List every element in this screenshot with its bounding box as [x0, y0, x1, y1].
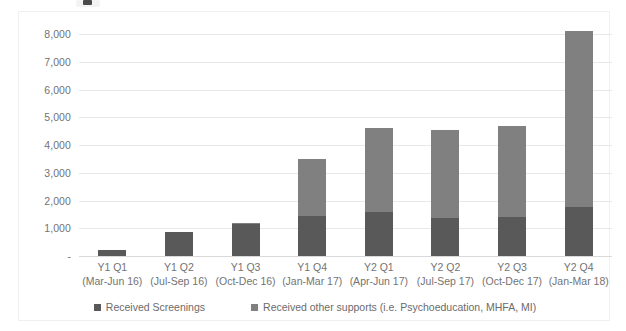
x-label-quarter: Y1 Q2 [164, 261, 194, 273]
bar-segment-screenings[interactable] [498, 217, 526, 256]
y-tick-label: 1,000 [19, 222, 71, 234]
x-label-date-range: (Oct-Dec 16) [212, 274, 279, 288]
x-axis-category-label: Y2 Q1(Apr-Jun 17) [346, 260, 413, 288]
x-label-date-range: (Mar-Jun 16) [79, 274, 146, 288]
y-tick-label: 5,000 [19, 111, 71, 123]
y-tick-label: 6,000 [19, 84, 71, 96]
gridline-- [79, 256, 612, 257]
bar-segment-screenings[interactable] [431, 218, 459, 256]
x-axis-tick-labels: Y1 Q1(Mar-Jun 16)Y1 Q2(Jul-Sep 16)Y1 Q3(… [79, 260, 612, 288]
stacked-bar[interactable] [565, 31, 593, 256]
x-label-quarter: Y2 Q3 [497, 261, 527, 273]
chart-legend: Received ScreeningsReceived other suppor… [19, 301, 611, 313]
y-tick-label: - [19, 250, 71, 262]
x-label-quarter: Y1 Q1 [97, 261, 127, 273]
stacked-bar[interactable] [98, 250, 126, 256]
y-tick-label: 7,000 [19, 56, 71, 68]
x-label-date-range: (Oct-Dec 17) [479, 274, 546, 288]
x-axis-category-label: Y2 Q2(Jul-Sep 17) [412, 260, 479, 288]
legend-label: Received Screenings [106, 301, 205, 313]
x-label-date-range: (Jan-Mar 17) [279, 274, 346, 288]
y-tick-label: 4,000 [19, 139, 71, 151]
bar-segment-screenings[interactable] [298, 216, 326, 256]
x-label-date-range: (Jan-Mar 18) [545, 274, 612, 288]
x-label-date-range: (Jul-Sep 16) [146, 274, 213, 288]
bar-segment-other-supports[interactable] [298, 159, 326, 216]
x-label-date-range: (Jul-Sep 17) [412, 274, 479, 288]
bar-segment-screenings[interactable] [165, 232, 193, 256]
bar-segment-other-supports[interactable] [365, 128, 393, 211]
bar-segment-screenings[interactable] [98, 250, 126, 256]
stacked-bar[interactable] [498, 126, 526, 256]
legend-swatch-icon [251, 304, 258, 311]
x-axis-category-label: Y1 Q3(Oct-Dec 16) [212, 260, 279, 288]
bar-slot [479, 34, 546, 256]
plot-area: 8,0007,0006,0005,0004,0003,0002,0001,000… [79, 34, 612, 256]
stacked-bar[interactable] [298, 159, 326, 256]
bar-slot [412, 34, 479, 256]
legend-item[interactable]: Received Screenings [94, 301, 205, 313]
stacked-bar[interactable] [431, 130, 459, 256]
legend-swatch-icon [94, 304, 101, 311]
bar-slot [545, 34, 612, 256]
y-tick-label: 3,000 [19, 167, 71, 179]
bar-series-layer [79, 34, 612, 256]
bar-segment-other-supports[interactable] [498, 126, 526, 218]
x-label-quarter: Y2 Q2 [431, 261, 461, 273]
bar-segment-screenings[interactable] [565, 207, 593, 256]
bar-segment-other-supports[interactable] [565, 31, 593, 207]
x-axis-category-label: Y1 Q4(Jan-Mar 17) [279, 260, 346, 288]
screenshot-root: 8,0007,0006,0005,0004,0003,0002,0001,000… [0, 0, 626, 331]
stacked-bar[interactable] [165, 232, 193, 256]
bar-slot [79, 34, 146, 256]
legend-label: Received other supports (i.e. Psychoeduc… [263, 301, 536, 313]
x-axis-category-label: Y2 Q3(Oct-Dec 17) [479, 260, 546, 288]
x-label-quarter: Y1 Q4 [297, 261, 327, 273]
bar-slot [146, 34, 213, 256]
y-tick-label: 8,000 [19, 28, 71, 40]
bar-slot [279, 34, 346, 256]
bar-segment-screenings[interactable] [365, 212, 393, 256]
x-axis-category-label: Y1 Q1(Mar-Jun 16) [79, 260, 146, 288]
x-axis-category-label: Y2 Q4(Jan-Mar 18) [545, 260, 612, 288]
bar-slot [212, 34, 279, 256]
x-axis-category-label: Y1 Q2(Jul-Sep 16) [146, 260, 213, 288]
stacked-bar[interactable] [365, 128, 393, 256]
bar-slot [346, 34, 413, 256]
x-label-quarter: Y2 Q4 [564, 261, 594, 273]
y-tick-label: 2,000 [19, 195, 71, 207]
x-label-quarter: Y2 Q1 [364, 261, 394, 273]
chart-container: 8,0007,0006,0005,0004,0003,0002,0001,000… [18, 11, 610, 321]
stacked-bar[interactable] [232, 223, 260, 256]
legend-item[interactable]: Received other supports (i.e. Psychoeduc… [251, 301, 536, 313]
x-label-quarter: Y1 Q3 [231, 261, 261, 273]
x-label-date-range: (Apr-Jun 17) [346, 274, 413, 288]
bar-segment-other-supports[interactable] [431, 130, 459, 218]
clipped-top-artifact [83, 0, 92, 5]
bar-segment-screenings[interactable] [232, 224, 260, 256]
